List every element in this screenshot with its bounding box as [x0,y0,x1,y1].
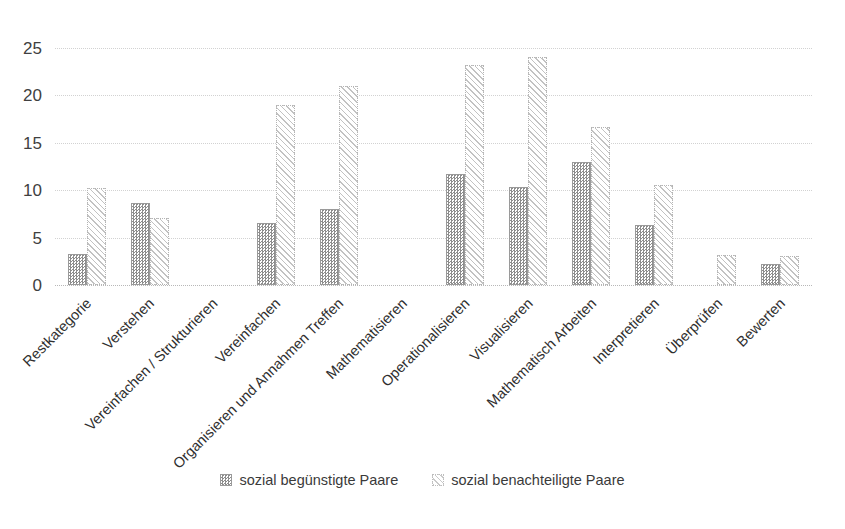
bar-group [623,48,686,285]
bar[interactable] [654,185,673,285]
legend-item[interactable]: sozial benachteiligte Paare [432,472,624,488]
x-axis-label: Mathematisch Arbeiten [484,293,602,411]
plot-area [55,48,812,285]
bar[interactable] [717,255,736,285]
bar[interactable] [465,65,484,285]
legend-label: sozial benachteiligte Paare [451,472,624,488]
y-tick-label: 20 [0,87,42,104]
x-axis-label: Überprüfen [663,293,728,358]
y-tick-label: 5 [0,229,42,246]
bar[interactable] [87,188,106,285]
bar-group [307,48,370,285]
bar[interactable] [528,57,547,285]
legend-label: sozial begünstigte Paare [239,472,398,488]
bar[interactable] [320,209,339,285]
bar-group [749,48,812,285]
y-tick-label: 10 [0,182,42,199]
bar[interactable] [780,256,799,285]
bar[interactable] [446,174,465,285]
bar[interactable] [276,105,295,285]
bar[interactable] [572,162,591,285]
bar-group [244,48,307,285]
legend-item[interactable]: sozial begünstigte Paare [220,472,398,488]
bar-group [55,48,118,285]
bar-chart: 0510152025 RestkategorieVerstehenVereinf… [0,0,845,529]
x-axis-label: Verstehen [101,293,161,353]
bar-group [497,48,560,285]
y-tick-label: 0 [0,277,42,294]
bar[interactable] [509,187,528,285]
y-tick-label: 25 [0,40,42,57]
bar-group [118,48,181,285]
y-axis: 0510152025 [0,30,50,305]
bar-group [686,48,749,285]
bar-group [560,48,623,285]
legend-swatch-icon [220,474,232,486]
chart-legend: sozial begünstigte Paaresozial benachtei… [0,472,845,488]
bar-group [370,48,433,285]
bar[interactable] [150,218,169,285]
legend-swatch-icon [432,474,444,486]
bar[interactable] [635,225,654,285]
bar-groups [55,48,812,285]
bar[interactable] [761,264,780,285]
y-tick-label: 15 [0,134,42,151]
bar-group [181,48,244,285]
bar-group [433,48,496,285]
gridline [55,285,812,286]
bar[interactable] [131,203,150,285]
bar[interactable] [68,254,87,285]
bar[interactable] [339,86,358,285]
x-axis-label: Bewerten [734,293,791,350]
x-axis-label: Vereinfachen / Strukturieren [83,293,224,434]
bar[interactable] [591,127,610,285]
bar[interactable] [257,223,276,285]
